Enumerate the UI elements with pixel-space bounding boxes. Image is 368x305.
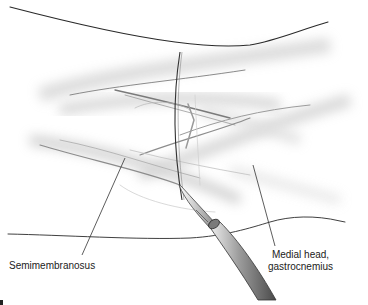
label-gastrocnemius-line2: gastrocnemius <box>268 261 333 273</box>
anatomy-figure: Semimembranosus Medial head, gastrocnemi… <box>0 0 368 305</box>
scalpel <box>179 185 276 300</box>
leader-line-semimembranosus <box>82 158 125 255</box>
label-semimembranosus: Semimembranosus <box>9 260 95 272</box>
tissue-shading <box>30 45 350 200</box>
corner-mark <box>0 300 3 305</box>
label-gastrocnemius-line1: Medial head, <box>268 249 333 261</box>
label-medial-head-gastrocnemius: Medial head, gastrocnemius <box>268 249 333 273</box>
